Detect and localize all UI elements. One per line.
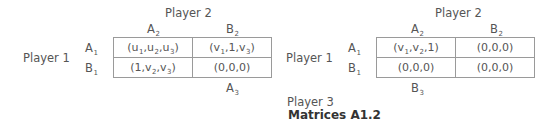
right-row-header-b1: B1 — [348, 61, 361, 75]
table-row: (1,v2,v3) (0,0,0) — [114, 58, 272, 78]
payoff-cell: (0,0,0) — [456, 38, 535, 58]
right-col-header-b2: B2 — [490, 22, 503, 36]
payoff-cell: (0,0,0) — [193, 58, 272, 78]
left-player3-strategy-a3: A3 — [226, 81, 239, 95]
right-column-player-label: Player 2 — [435, 6, 482, 20]
payoff-cell: (v1,1,v3) — [193, 38, 272, 58]
right-player3-strategy-b3: B3 — [411, 81, 424, 95]
right-row-header-a1: A1 — [348, 41, 361, 55]
payoff-cell: (u1,u2,u3) — [114, 38, 193, 58]
left-row-header-a1: A1 — [85, 41, 98, 55]
left-row-header-b1: B1 — [85, 61, 98, 75]
player3-label: Player 3 — [287, 95, 334, 109]
right-col-header-a2: A2 — [411, 22, 424, 36]
table-row: (0,0,0) (0,0,0) — [377, 58, 535, 78]
right-row-player-label: Player 1 — [286, 51, 333, 65]
left-col-header-b2: B2 — [226, 22, 239, 36]
left-row-player-label: Player 1 — [23, 51, 70, 65]
left-payoff-matrix: (u1,u2,u3) (v1,1,v3) (1,v2,v3) (0,0,0) — [113, 37, 272, 78]
figure-caption: Matrices A1.2 — [288, 108, 381, 122]
table-row: (v1,v2,1) (0,0,0) — [377, 38, 535, 58]
left-column-player-label: Player 2 — [165, 6, 212, 20]
table-row: (u1,u2,u3) (v1,1,v3) — [114, 38, 272, 58]
right-payoff-matrix: (v1,v2,1) (0,0,0) (0,0,0) (0,0,0) — [376, 37, 535, 78]
payoff-cell: (0,0,0) — [377, 58, 456, 78]
payoff-cell: (1,v2,v3) — [114, 58, 193, 78]
payoff-cell: (v1,v2,1) — [377, 38, 456, 58]
payoff-cell: (0,0,0) — [456, 58, 535, 78]
left-col-header-a2: A2 — [147, 22, 160, 36]
